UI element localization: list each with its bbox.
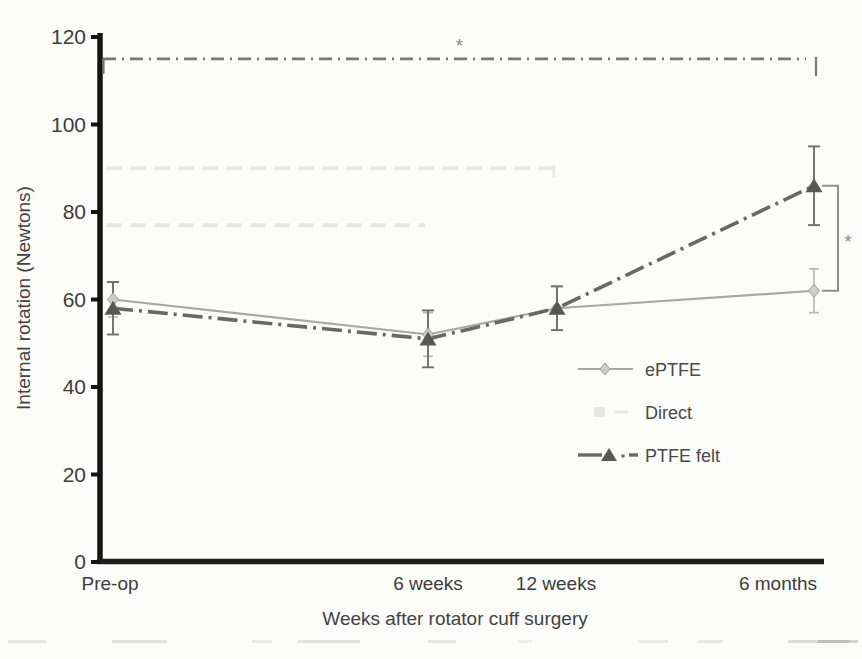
significance-bracket-right — [822, 186, 838, 291]
series-ptfe-felt-line — [113, 186, 814, 339]
y-tick-label: 40 — [63, 375, 86, 398]
line-chart: 020406080100120Pre-op6 weeks12 weeks6 mo… — [0, 0, 862, 659]
marker-diamond — [809, 284, 820, 297]
y-tick-label: 80 — [63, 200, 86, 223]
legend-marker-square-faded — [594, 407, 605, 417]
marker-triangle — [806, 178, 823, 192]
legend-label: PTFE felt — [645, 446, 720, 466]
legend-marker-diamond — [600, 363, 610, 375]
significance-asterisk-right: * — [844, 231, 852, 252]
y-tick-label: 20 — [63, 463, 86, 486]
x-tick-label: 12 weeks — [516, 573, 596, 594]
y-tick-label: 60 — [63, 288, 86, 311]
y-tick-label: 120 — [51, 25, 86, 48]
figure-container: 020406080100120Pre-op6 weeks12 weeks6 mo… — [0, 0, 862, 659]
x-axis-title: Weeks after rotator cuff surgery — [322, 608, 588, 629]
legend-label: Direct — [645, 403, 692, 423]
legend-item: Direct — [594, 403, 692, 423]
series-eptfe-line — [113, 291, 814, 335]
y-axis-title: Internal rotation (Newtons) — [13, 186, 34, 410]
legend-marker-triangle — [601, 448, 617, 461]
x-tick-label: 6 weeks — [393, 573, 463, 594]
legend-item: ePTFE — [578, 360, 701, 380]
y-tick-label: 0 — [74, 550, 86, 573]
significance-asterisk-top: * — [456, 35, 464, 56]
legend-label: ePTFE — [645, 360, 701, 380]
y-tick-label: 100 — [51, 113, 86, 136]
legend-item: PTFE felt — [578, 446, 720, 466]
x-tick-label: Pre-op — [81, 573, 138, 594]
x-tick-label: 6 months — [739, 573, 817, 594]
legend-sample-dot — [621, 454, 625, 458]
